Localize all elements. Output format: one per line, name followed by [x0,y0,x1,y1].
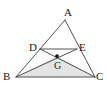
vertex-label-d: D [29,42,37,53]
vertex-label-e: E [79,42,86,53]
vertex-label-g: G [54,61,61,71]
figure-canvas [0,0,107,94]
vertex-label-a: A [64,7,72,18]
vertex-label-b: B [3,71,10,82]
vertex-label-c: C [96,71,103,82]
point-g-dot [55,54,59,58]
geometry-figure: A B C D E G [0,0,107,94]
